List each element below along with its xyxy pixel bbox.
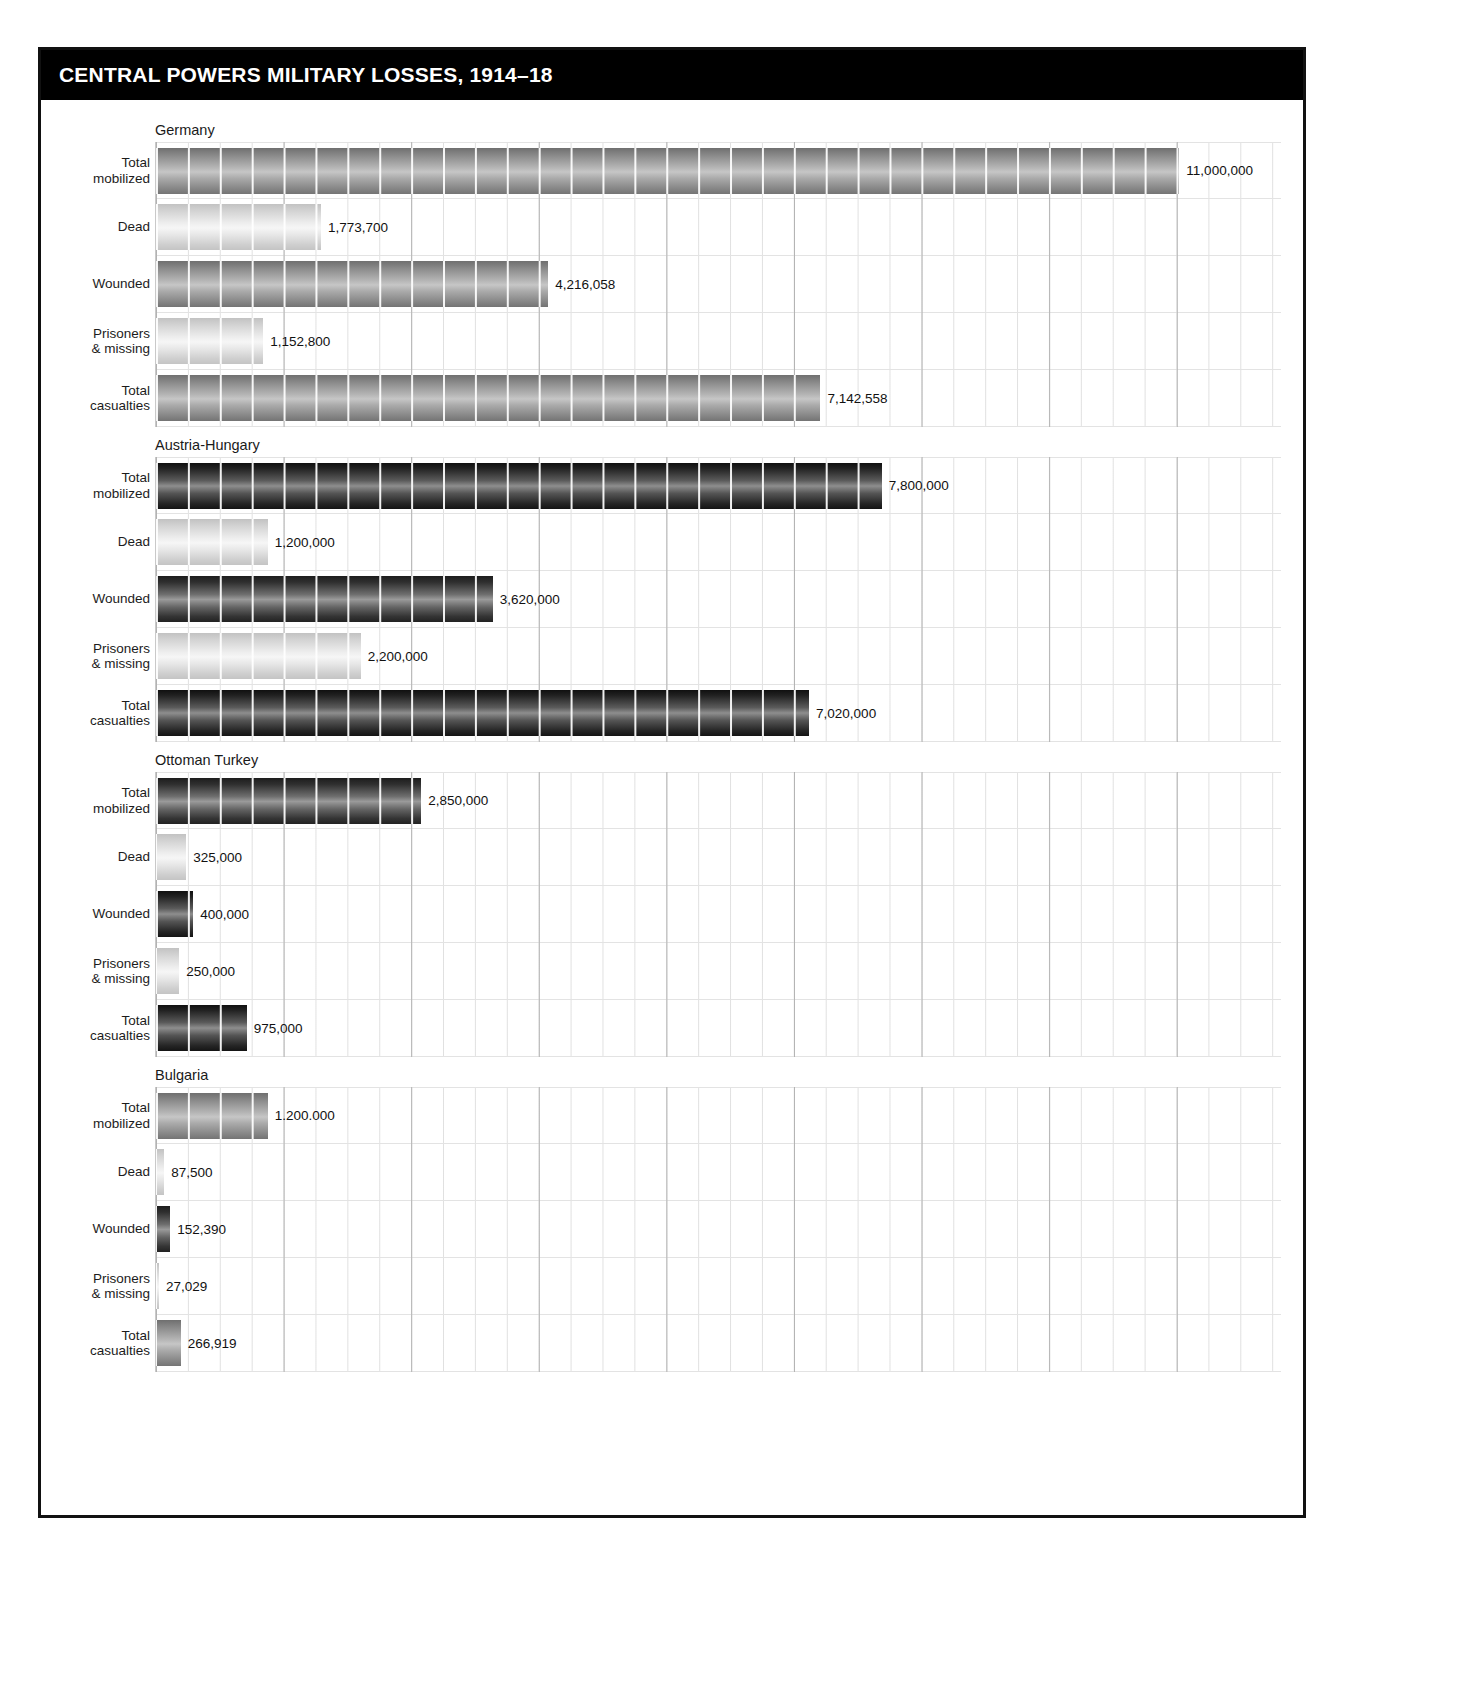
bar-segments [156,576,493,622]
row-category-label: Dead [54,849,150,865]
bar-value-label: 250,000 [186,964,235,979]
bar-value-label: 7,800,000 [889,478,949,493]
bar-row: Dead87,500 [156,1144,1281,1201]
bar-wrap: 4,216,058 [156,261,1281,307]
bar-row: Totalmobilized1.200.000 [156,1087,1281,1144]
panel-austria-hungary: Austria-HungaryTotalmobilized7,800,000De… [51,437,1281,742]
bar-value-label: 1,200,000 [275,535,335,550]
bar-row: Wounded3,620,000 [156,571,1281,628]
bar-segments [156,318,263,364]
panel-title: Germany [155,122,1281,138]
bar [156,1005,247,1051]
bar-wrap: 1,200,000 [156,519,1281,565]
plot-area: Totalmobilized1.200.000Dead87,500Wounded… [155,1087,1281,1372]
bar-row: Totalcasualties7,142,558 [156,370,1281,427]
panel-bulgaria: BulgariaTotalmobilized1.200.000Dead87,50… [51,1067,1281,1372]
bar-segments [156,463,882,509]
bar-wrap: 1,152,800 [156,318,1281,364]
row-category-label: Prisoners& missing [54,326,150,357]
bar [156,519,268,565]
bar [156,1093,268,1139]
panel-title: Bulgaria [155,1067,1281,1083]
bar-segments [156,1005,247,1051]
bar [156,948,179,994]
bar-segments [156,261,548,307]
bar-segments [156,1320,181,1366]
row-category-label: Dead [54,219,150,235]
row-category-label: Totalmobilized [54,155,150,186]
bar-wrap: 3,620,000 [156,576,1281,622]
row-category-label: Totalcasualties [54,698,150,729]
bar-row: Prisoners& missing27,029 [156,1258,1281,1315]
page-title: CENTRAL POWERS MILITARY LOSSES, 1914–18 [59,63,553,87]
chart-card: CENTRAL POWERS MILITARY LOSSES, 1914–18 … [38,47,1306,1518]
bar-segments [156,1206,170,1252]
bar-value-label: 1,773,700 [328,220,388,235]
bar [156,375,820,421]
bar-value-label: 1.200.000 [275,1108,335,1123]
bar-wrap: 2,200,000 [156,633,1281,679]
bar-value-label: 4,216,058 [555,277,615,292]
row-category-label: Prisoners& missing [54,1271,150,1302]
row-category-label: Totalcasualties [54,1328,150,1359]
bar-segments [156,375,820,421]
bar [156,633,361,679]
bar-row: Prisoners& missing250,000 [156,943,1281,1000]
bar-segments [156,1093,268,1139]
bar [156,261,548,307]
bar [156,576,493,622]
bar-row: Dead325,000 [156,829,1281,886]
bar [156,1149,164,1195]
bar-segments [156,519,268,565]
plot-area: Totalmobilized11,000,000Dead1,773,700Wou… [155,142,1281,427]
row-category-label: Totalcasualties [54,1013,150,1044]
bar-segments [156,204,321,250]
bar-row: Prisoners& missing2,200,000 [156,628,1281,685]
bar-row: Dead1,200,000 [156,514,1281,571]
bar-wrap: 1.200.000 [156,1093,1281,1139]
bar-wrap: 266,919 [156,1320,1281,1366]
bar-value-label: 27,029 [166,1279,207,1294]
bar [156,463,882,509]
bar-row: Totalcasualties7,020,000 [156,685,1281,742]
bar-wrap: 975,000 [156,1005,1281,1051]
bar-segments [156,891,193,937]
bar [156,690,809,736]
row-category-label: Totalmobilized [54,470,150,501]
row-category-label: Totalcasualties [54,383,150,414]
bar-wrap: 11,000,000 [156,148,1281,194]
bar-value-label: 87,500 [171,1165,212,1180]
bar-value-label: 7,142,558 [827,391,887,406]
bar [156,1320,181,1366]
bar-wrap: 7,800,000 [156,463,1281,509]
bar-wrap: 7,020,000 [156,690,1281,736]
bar-segments [156,778,421,824]
bar-segments [156,1263,159,1309]
plot-area: Totalmobilized7,800,000Dead1,200,000Woun… [155,457,1281,742]
row-category-label: Dead [54,1164,150,1180]
bar-row: Totalcasualties266,919 [156,1315,1281,1372]
bar-wrap: 1,773,700 [156,204,1281,250]
bar-row: Totalmobilized7,800,000 [156,457,1281,514]
row-category-label: Wounded [54,276,150,292]
bar-segments [156,148,1179,194]
bar-segments [156,834,186,880]
bar-wrap: 87,500 [156,1149,1281,1195]
row-category-label: Totalmobilized [54,1100,150,1131]
bar-value-label: 1,152,800 [270,334,330,349]
bar-segments [156,633,361,679]
panel-title: Austria-Hungary [155,437,1281,453]
bar-wrap: 400,000 [156,891,1281,937]
row-category-label: Wounded [54,1221,150,1237]
bar-wrap: 325,000 [156,834,1281,880]
bar [156,834,186,880]
bar-value-label: 2,850,000 [428,793,488,808]
row-category-label: Wounded [54,906,150,922]
chart-title-bar: CENTRAL POWERS MILITARY LOSSES, 1914–18 [41,50,1303,100]
row-category-label: Prisoners& missing [54,641,150,672]
panel-ottoman-turkey: Ottoman TurkeyTotalmobilized2,850,000Dea… [51,752,1281,1057]
bar-value-label: 325,000 [193,850,242,865]
bar-value-label: 11,000,000 [1186,163,1253,178]
panel-germany: GermanyTotalmobilized11,000,000Dead1,773… [51,122,1281,427]
bar-value-label: 3,620,000 [500,592,560,607]
